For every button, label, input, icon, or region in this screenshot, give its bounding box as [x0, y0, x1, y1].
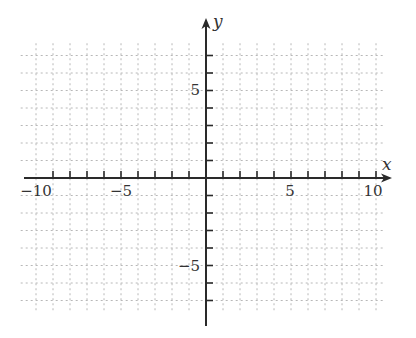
x-tick-label-10: 10 — [363, 182, 382, 200]
x-tick-label-neg10: −10 — [20, 182, 52, 200]
x-axis-label: x — [382, 154, 392, 174]
x-tick-label-5: 5 — [285, 182, 295, 200]
y-tick-label-neg5: −5 — [178, 257, 200, 275]
x-tick-label-neg5: −5 — [110, 182, 132, 200]
coordinate-plane: y x −10 −5 5 10 5 −5 — [0, 0, 416, 338]
y-tick-label-5: 5 — [190, 81, 200, 99]
y-axis-label: y — [212, 11, 223, 31]
